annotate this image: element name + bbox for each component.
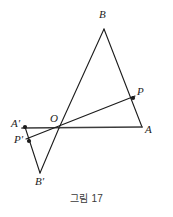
vertex-label-P: P xyxy=(137,86,144,97)
figure-caption: 그림 17 xyxy=(0,190,173,205)
point-marker-A-prime xyxy=(23,125,27,129)
vertex-label-P-prime: P′ xyxy=(14,134,23,145)
segment-B-A xyxy=(104,29,142,127)
segment-P-prime-to-P xyxy=(26,96,135,139)
vertex-label-B-prime: B′ xyxy=(35,176,44,187)
vertex-label-B: B xyxy=(99,9,106,20)
segment-O-A xyxy=(22,127,142,128)
geometry-canvas xyxy=(0,0,173,217)
segment-O-B-prime xyxy=(40,128,59,173)
point-marker-P xyxy=(131,96,135,100)
vertex-label-A: A xyxy=(145,124,152,135)
vertex-label-O: O xyxy=(50,113,58,124)
vertex-label-A-prime: A′ xyxy=(11,118,20,129)
segment-O-B xyxy=(59,29,104,128)
geometry-figure: B P A O A′ P′ B′ 그림 17 xyxy=(0,0,173,217)
point-marker-P-prime xyxy=(27,139,31,143)
